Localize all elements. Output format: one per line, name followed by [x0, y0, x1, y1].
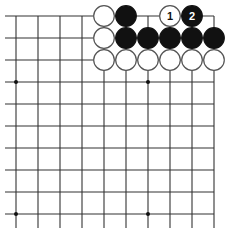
white-stone — [160, 50, 181, 71]
white-stone — [116, 50, 137, 71]
black-stone — [116, 28, 137, 49]
white-stone — [94, 6, 115, 27]
white-stone — [94, 50, 115, 71]
black-stone — [204, 28, 225, 49]
black-stone — [160, 28, 181, 49]
white-stone — [182, 50, 203, 71]
star-point — [14, 80, 18, 84]
move-number-label: 2 — [189, 10, 195, 22]
star-point — [146, 80, 150, 84]
grid-lines — [5, 16, 214, 228]
black-stone — [138, 28, 159, 49]
white-stone — [204, 50, 225, 71]
white-stone — [138, 50, 159, 71]
move-number-label: 1 — [167, 10, 173, 22]
black-stone — [182, 28, 203, 49]
go-board: 12 — [0, 0, 229, 232]
star-point — [146, 212, 150, 216]
white-stone — [94, 28, 115, 49]
black-stone — [116, 6, 137, 27]
star-point — [14, 212, 18, 216]
white-stone: 1 — [160, 6, 181, 27]
black-stone: 2 — [182, 6, 203, 27]
